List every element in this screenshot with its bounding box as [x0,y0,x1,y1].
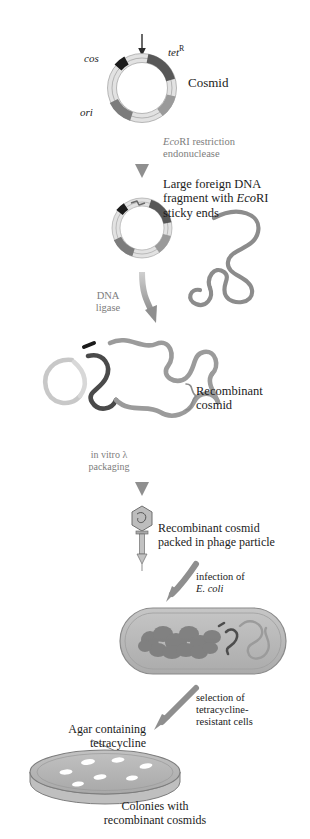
label-agar-line1: Agar containing [6,723,146,737]
label-phage-particle: Recombinant cosmid packed in phage parti… [158,522,275,550]
label-phage-line1: Recombinant cosmid [158,522,275,536]
label-ori: ori [80,106,93,119]
label-ecori-line1: EcoRI restriction [163,136,235,148]
ecoli-cell-icon [120,608,286,674]
label-packaging-line2: packaging [78,461,140,473]
bacteriophage-particle-icon [132,506,152,571]
label-foreign-line2: fragment with EcoRI [163,191,269,205]
label-colonies-line2: recombinant cosmids [55,814,255,828]
label-phage-line2: packed in phage particle [158,536,275,550]
label-tet-text: tet [168,46,179,58]
label-recombinant-line2: cosmid [196,398,263,412]
label-dna-ligase: DNA ligase [86,290,130,314]
curved-process-arrow-icon [154,688,196,730]
circular-cosmid-icon [108,54,177,123]
label-ecori-enzyme: EcoRI restriction endonuclease [163,136,235,160]
label-ecori-rest: RI restriction [179,136,235,147]
label-foreign-italic: Eco [237,191,256,205]
label-recombinant-line1: Recombinant [196,384,263,398]
label-cosmid: Cosmid [188,76,228,91]
label-ligase-line2: ligase [86,302,130,314]
label-foreign-pre: fragment with [163,191,237,205]
label-selection-line2: tetracycline- [196,704,253,716]
label-tet-r: tetR [168,44,184,58]
label-foreign-post: RI [256,191,269,205]
label-packaging-line1: in vitro λ [78,449,140,461]
label-colonies-caption: Colonies with recombinant cosmids [55,800,255,828]
label-recombinant-cosmid: Recombinant cosmid [196,384,263,413]
label-selection-line1: selection of [196,692,253,704]
label-infection-organism: E. coli [196,583,245,595]
cosmid-cloning-diagram [0,0,310,839]
label-ligase-line1: DNA [86,290,130,302]
label-lambda-packaging: in vitro λ packaging [78,449,140,472]
label-selection-line3: resistant cells [196,716,253,728]
downward-process-arrow-icon [135,130,149,178]
label-colonies-line1: Colonies with [55,800,255,814]
label-ecori-line2: endonuclease [163,148,235,160]
label-foreign-line1: Large foreign DNA [163,177,269,191]
label-tet-superscript: R [179,44,184,53]
label-foreign-dna: Large foreign DNA fragment with EcoRI st… [163,177,269,220]
curved-process-arrow-icon [166,564,196,602]
label-agar: Agar containing tetracycline [6,723,146,751]
label-cos: cos [84,52,99,65]
label-agar-line2: tetracycline [6,737,146,751]
foreign-dna-strand-icon [190,212,258,305]
label-selection: selection of tetracycline- resistant cel… [196,692,253,728]
label-ecori-italic: Eco [163,136,179,147]
label-infection: infection of E. coli [196,571,245,595]
label-infection-line1: infection of [196,571,245,583]
recombinant-cosmid-strand-icon [45,340,218,415]
cut-site-arrow-icon [138,34,146,56]
label-foreign-line3: sticky ends [163,206,269,220]
downward-process-arrow-icon [142,272,157,323]
petri-dish-icon [30,750,180,804]
